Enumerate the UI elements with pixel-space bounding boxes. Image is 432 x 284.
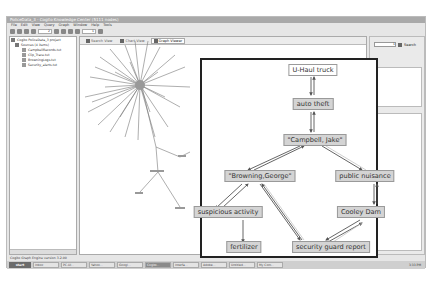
taskbar-item[interactable]: Yahoo... — [89, 262, 115, 268]
taskbar-item[interactable]: PC-UI... — [61, 262, 87, 268]
taskbar-item[interactable]: Interfa... — [173, 262, 199, 268]
zoom-out-icon[interactable] — [31, 29, 36, 34]
start-button[interactable]: start — [9, 262, 31, 268]
refresh-icon[interactable] — [17, 29, 22, 34]
node-public-nuisance[interactable]: public nuisance — [335, 170, 394, 182]
graph-icon[interactable] — [68, 29, 73, 34]
tree-item-file[interactable]: Security_alerts.txt — [10, 62, 76, 67]
filter-icon[interactable] — [75, 29, 80, 34]
node-security-guard-report[interactable]: security guard report — [292, 241, 370, 253]
document-icon — [22, 48, 26, 52]
document-icon — [22, 63, 26, 67]
document-icon — [22, 53, 26, 57]
zoom-field[interactable]: 2 — [38, 29, 52, 34]
node-auto-theft[interactable]: auto theft — [293, 98, 334, 110]
node-fertilizer[interactable]: fertilizer — [226, 241, 261, 253]
graph-detail-callout: U-Haul truck auto theft "Campbell, Jake"… — [200, 58, 378, 258]
project-icon — [11, 38, 15, 42]
node-u-haul-truck[interactable]: U-Haul truck — [288, 64, 337, 76]
document-icon — [22, 58, 26, 62]
search-button[interactable]: Search — [404, 43, 416, 47]
search-area: 1 Search — [374, 41, 422, 48]
search-icon[interactable] — [398, 43, 402, 47]
project-tree-panel: Cogito PoliceData_3 project Sources (4 i… — [9, 36, 77, 255]
taskbar-item[interactable]: Untitled... — [229, 262, 255, 268]
taskbar: start Inbox PC-UI... Yahoo... Googl... C… — [7, 261, 425, 269]
zoom-in-icon[interactable] — [24, 29, 29, 34]
graph-edges — [202, 60, 380, 260]
node-browning-george[interactable]: "Browning,George" — [224, 170, 295, 182]
taskbar-item[interactable]: My Com... — [257, 262, 283, 268]
node-campbell-jake[interactable]: "Campbell, Jake" — [283, 134, 346, 146]
taskbar-item-active[interactable]: Cogito... — [145, 262, 171, 268]
search-input[interactable]: 1 — [374, 42, 396, 47]
node-suspicious-activity[interactable]: suspicious activity — [194, 206, 263, 218]
new-icon[interactable] — [10, 29, 15, 34]
print-icon[interactable] — [61, 29, 66, 34]
horizontal-scrollbar[interactable] — [10, 249, 76, 254]
depth-field[interactable]: 1 — [82, 29, 96, 34]
settings-icon[interactable] — [98, 29, 103, 34]
layout-icon[interactable] — [54, 29, 59, 34]
taskbar-item[interactable]: Googl... — [117, 262, 143, 268]
folder-icon — [15, 43, 19, 47]
taskbar-item[interactable]: Adobe... — [201, 262, 227, 268]
node-cooley-dam[interactable]: Cooley Dam — [337, 206, 385, 218]
toolbar: 2 1 — [7, 28, 425, 35]
system-clock: 3:33 PM — [409, 263, 423, 267]
taskbar-item[interactable]: Inbox — [33, 262, 59, 268]
